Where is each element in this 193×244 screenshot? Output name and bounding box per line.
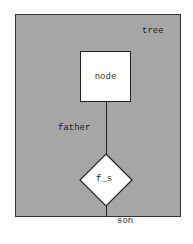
- son-edge: [106, 206, 107, 217]
- f-s-diamond: [0, 0, 193, 244]
- f-s-label: f_s: [96, 174, 112, 184]
- son-label: son: [117, 216, 133, 226]
